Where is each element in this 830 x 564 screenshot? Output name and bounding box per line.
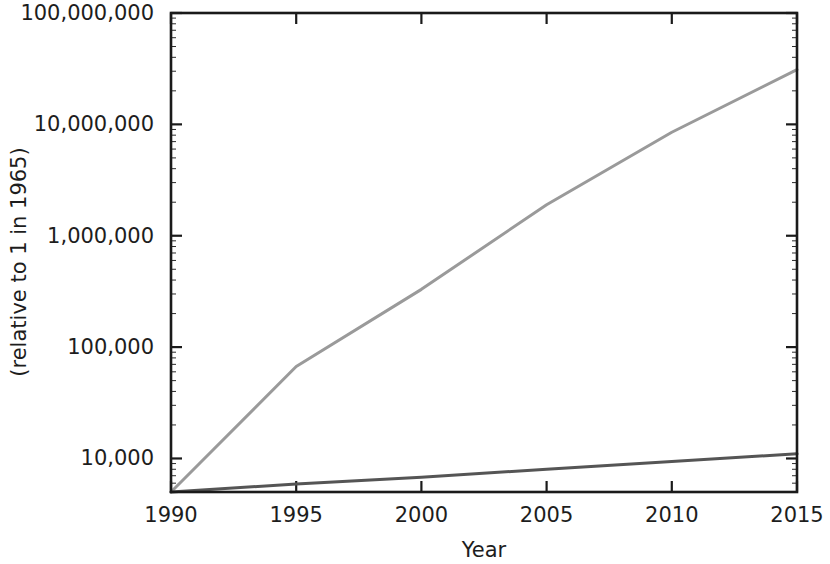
y-tick-label: 10,000 bbox=[81, 446, 154, 470]
x-tick-label: 2010 bbox=[645, 503, 698, 527]
chart-canvas: 10,000100,0001,000,00010,000,000100,000,… bbox=[0, 0, 830, 564]
x-tick-label: 1995 bbox=[269, 503, 322, 527]
x-tick-label: 2015 bbox=[770, 503, 823, 527]
x-tick-label: 1990 bbox=[144, 503, 197, 527]
y-axis-title: (relative to 1 in 1965) bbox=[7, 147, 31, 376]
plot-area-background bbox=[171, 13, 797, 492]
y-tick-label: 100,000 bbox=[67, 335, 154, 359]
x-tick-label: 2005 bbox=[520, 503, 573, 527]
x-tick-label: 2000 bbox=[395, 503, 448, 527]
y-tick-label: 100,000,000 bbox=[20, 1, 154, 25]
y-tick-label: 10,000,000 bbox=[34, 112, 154, 136]
x-axis-title: Year bbox=[461, 538, 507, 562]
chart-figure: 10,000100,0001,000,00010,000,000100,000,… bbox=[0, 0, 830, 564]
y-tick-label: 1,000,000 bbox=[47, 224, 154, 248]
